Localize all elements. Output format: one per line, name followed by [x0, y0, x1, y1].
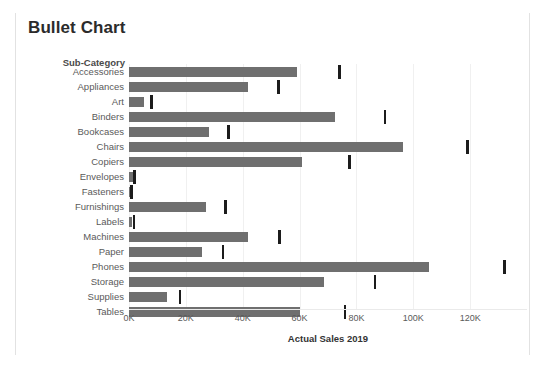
reference-marker-labels[interactable]: [133, 215, 136, 229]
row-label-paper: Paper: [99, 245, 124, 258]
bar-chairs[interactable]: [129, 142, 403, 152]
chart-row[interactable]: Machines: [129, 229, 527, 244]
chart-row[interactable]: Furnishings: [129, 199, 527, 214]
reference-marker-tables[interactable]: [344, 305, 347, 319]
bar-paper[interactable]: [129, 247, 202, 257]
row-label-furnishings: Furnishings: [75, 200, 124, 213]
reference-marker-machines[interactable]: [278, 230, 281, 244]
reference-marker-supplies[interactable]: [179, 290, 182, 304]
bar-tables[interactable]: [129, 307, 300, 317]
chart-row[interactable]: Phones: [129, 259, 527, 274]
chart-row[interactable]: Fasteners: [129, 184, 527, 199]
row-label-supplies: Supplies: [88, 290, 124, 303]
reference-marker-fasteners[interactable]: [130, 185, 133, 199]
row-label-phones: Phones: [92, 260, 124, 273]
chart-row[interactable]: Binders: [129, 109, 527, 124]
bullet-chart-container: Bullet Chart Sub-Category AccessoriesApp…: [0, 0, 544, 367]
chart-row[interactable]: Labels: [129, 214, 527, 229]
reference-marker-paper[interactable]: [222, 245, 225, 259]
reference-marker-furnishings[interactable]: [224, 200, 227, 214]
bar-accessories[interactable]: [129, 67, 297, 77]
row-label-labels: Labels: [96, 215, 124, 228]
reference-marker-accessories[interactable]: [338, 65, 341, 79]
chart-row[interactable]: Appliances: [129, 79, 527, 94]
reference-marker-phones[interactable]: [503, 260, 506, 274]
reference-marker-bookcases[interactable]: [227, 125, 230, 139]
chart-row[interactable]: Accessories: [129, 64, 527, 79]
x-tick-label: 40K: [235, 313, 251, 323]
row-label-art: Art: [112, 95, 124, 108]
chart-row[interactable]: Supplies: [129, 289, 527, 304]
row-label-appliances: Appliances: [78, 80, 124, 93]
row-label-chairs: Chairs: [97, 140, 124, 153]
chart-row[interactable]: Storage: [129, 274, 527, 289]
chart-row[interactable]: Bookcases: [129, 124, 527, 139]
reference-marker-art[interactable]: [150, 95, 153, 109]
bar-supplies[interactable]: [129, 292, 167, 302]
x-axis-baseline: [129, 309, 527, 310]
panel-border-right: [529, 13, 530, 355]
page-title: Bullet Chart: [28, 18, 126, 38]
x-tick-label: 80K: [348, 313, 364, 323]
bar-appliances[interactable]: [129, 82, 248, 92]
row-label-storage: Storage: [91, 275, 124, 288]
reference-marker-envelopes[interactable]: [133, 170, 136, 184]
x-tick-label: 20K: [178, 313, 194, 323]
chart-row[interactable]: Paper: [129, 244, 527, 259]
row-label-copiers: Copiers: [91, 155, 124, 168]
chart-row[interactable]: Envelopes: [129, 169, 527, 184]
x-tick-label: 100K: [403, 313, 424, 323]
bar-bookcases[interactable]: [129, 127, 209, 137]
bar-furnishings[interactable]: [129, 202, 206, 212]
reference-marker-appliances[interactable]: [277, 80, 280, 94]
row-label-envelopes: Envelopes: [80, 170, 124, 183]
reference-marker-chairs[interactable]: [466, 140, 469, 154]
reference-marker-binders[interactable]: [384, 110, 387, 124]
bar-machines[interactable]: [129, 232, 248, 242]
bar-storage[interactable]: [129, 277, 324, 287]
row-label-bookcases: Bookcases: [78, 125, 124, 138]
x-tick-label: 120K: [460, 313, 481, 323]
row-label-accessories: Accessories: [73, 65, 124, 78]
x-tick-label: 0K: [123, 313, 134, 323]
plot-area: AccessoriesAppliancesArtBindersBookcases…: [129, 64, 527, 309]
bar-labels[interactable]: [129, 217, 132, 227]
x-axis-title: Actual Sales 2019: [129, 333, 527, 344]
reference-marker-storage[interactable]: [374, 275, 377, 289]
row-label-fasteners: Fasteners: [82, 185, 124, 198]
bar-phones[interactable]: [129, 262, 429, 272]
bar-copiers[interactable]: [129, 157, 302, 167]
row-label-machines: Machines: [83, 230, 124, 243]
chart-row[interactable]: Copiers: [129, 154, 527, 169]
bar-art[interactable]: [129, 97, 144, 107]
row-label-binders: Binders: [92, 110, 124, 123]
bar-binders[interactable]: [129, 112, 335, 122]
chart-row[interactable]: Art: [129, 94, 527, 109]
chart-row[interactable]: Chairs: [129, 139, 527, 154]
reference-marker-copiers[interactable]: [348, 155, 351, 169]
x-tick-label: 60K: [292, 313, 308, 323]
row-label-tables: Tables: [97, 305, 124, 318]
